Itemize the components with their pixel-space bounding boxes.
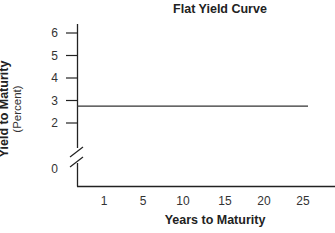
x-tick-label: 10 [171, 194, 195, 208]
y-axis-break-mark [70, 147, 83, 157]
y-ticks [66, 33, 78, 123]
x-tick-label: 1 [92, 194, 116, 208]
x-tick-label: 25 [291, 194, 315, 208]
y-tick-label: 0 [44, 162, 58, 176]
y-tick-label: 3 [44, 94, 58, 108]
y-tick-label: 4 [44, 71, 58, 85]
x-axis-title: Years to Maturity [150, 213, 280, 227]
x-tick-label: 15 [213, 194, 237, 208]
x-tick-label: 20 [252, 194, 276, 208]
x-tick-label: 5 [131, 194, 155, 208]
y-tick-label: 6 [44, 26, 58, 40]
y-tick-label: 2 [44, 116, 58, 130]
y-tick-label: 5 [44, 49, 58, 63]
y-axis-break-mark [70, 157, 83, 167]
